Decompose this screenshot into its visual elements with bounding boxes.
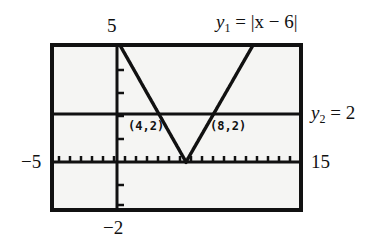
xmin-label: −2 bbox=[103, 218, 123, 237]
y-axis bbox=[117, 47, 124, 208]
xmax-label: 15 bbox=[311, 152, 330, 171]
calculator-screen-frame: (4,2) (8,2) bbox=[50, 43, 303, 212]
legend-y2: y2 = 2 bbox=[311, 103, 355, 125]
legend-y1-equation: = |x − 6| bbox=[230, 11, 297, 32]
calculator-screenshot: (4,2) (8,2) 5 −2 −5 15 y1 = |x − 6| y2 =… bbox=[0, 0, 389, 244]
x-axis bbox=[54, 156, 299, 162]
annotation-point-left: (4,2) bbox=[128, 119, 164, 133]
ymin-label: −5 bbox=[21, 152, 41, 171]
legend-y2-equation: = 2 bbox=[325, 102, 355, 123]
annotation-point-right: (8,2) bbox=[210, 119, 246, 133]
ymax-label: 5 bbox=[107, 16, 117, 35]
legend-y1: y1 = |x − 6| bbox=[216, 12, 297, 34]
graph-plot-area bbox=[54, 47, 299, 208]
series-y1-curve bbox=[121, 47, 252, 162]
